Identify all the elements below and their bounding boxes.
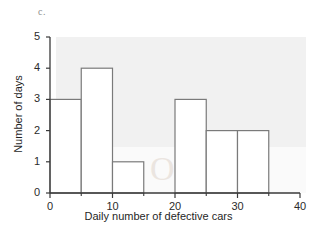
bar-30-35 (238, 131, 269, 193)
y-tick-label-3: 3 (22, 92, 40, 104)
x-tick-label-10: 10 (101, 200, 125, 212)
x-tick-label-40: 40 (288, 200, 312, 212)
bar-10-15 (113, 162, 144, 193)
bars-group (50, 68, 269, 193)
bar-25-30 (206, 131, 237, 193)
x-tick-label-30: 30 (226, 200, 250, 212)
x-ticks-group (50, 193, 300, 198)
y-tick-label-2: 2 (22, 124, 40, 136)
x-tick-label-20: 20 (163, 200, 187, 212)
bar-5-10 (81, 68, 112, 193)
y-tick-label-1: 1 (22, 155, 40, 167)
y-tick-label-0: 0 (22, 186, 40, 198)
x-tick-label-0: 0 (38, 200, 62, 212)
histogram-figure: c. Oasfile Number of days Daily number o… (0, 0, 317, 236)
y-tick-label-4: 4 (22, 61, 40, 73)
y-tick-label-5: 5 (22, 30, 40, 42)
bar-0-5 (50, 99, 81, 193)
bar-20-25 (175, 99, 206, 193)
